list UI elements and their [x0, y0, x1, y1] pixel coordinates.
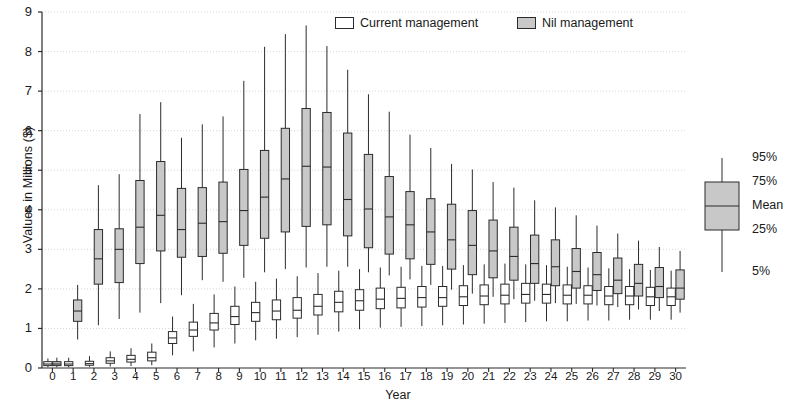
box-current-management	[625, 269, 633, 320]
box-current-management	[148, 343, 156, 365]
box-nil-management	[115, 174, 123, 319]
y-axis-tick-label: 0	[6, 360, 32, 375]
box-current-management	[501, 264, 509, 323]
y-axis-tick-label: 4	[6, 202, 32, 217]
plot-canvas	[0, 0, 796, 410]
box-current-management	[85, 356, 93, 367]
box-nil-management	[385, 112, 393, 276]
y-axis-tick-label: 6	[6, 123, 32, 138]
box-plot-key	[705, 158, 739, 272]
y-axis-tick-label: 3	[6, 241, 32, 256]
box-current-management	[168, 317, 176, 356]
box-nil-management	[157, 102, 165, 303]
box-nil-management	[94, 185, 102, 325]
box-current-management	[667, 271, 675, 320]
box-current-management	[231, 287, 239, 344]
box-current-management	[65, 358, 73, 367]
box-nil-management	[531, 200, 539, 300]
x-axis-tick-label: 30	[663, 370, 689, 382]
box-plot-figure: Values in Millions ($) Year Current mana…	[0, 0, 796, 410]
y-axis-tick-label: 5	[6, 162, 32, 177]
box-current-management	[376, 268, 384, 328]
box-current-management	[522, 264, 530, 322]
box-nil-management	[364, 94, 372, 272]
box-current-management	[542, 265, 550, 321]
box-current-management	[355, 269, 363, 329]
y-axis-tick-label: 2	[6, 281, 32, 296]
box-nil-management	[614, 234, 622, 308]
box-current-management	[44, 359, 52, 368]
box-current-management	[210, 294, 218, 347]
box-current-management	[335, 271, 343, 332]
box-nil-management	[655, 247, 663, 311]
box-nil-management	[136, 114, 144, 313]
box-nil-management	[219, 116, 227, 281]
y-axis-tick-label: 1	[6, 320, 32, 335]
y-axis-tick-label: 7	[6, 83, 32, 98]
box-current-management	[189, 304, 197, 351]
box-current-management	[563, 267, 571, 322]
box-current-management	[252, 282, 260, 341]
box-nil-management	[634, 241, 642, 310]
box-nil-management	[198, 124, 206, 280]
box-current-management	[438, 266, 446, 325]
box-current-management	[459, 265, 467, 324]
box-nil-management	[676, 251, 684, 313]
box-nil-management	[177, 138, 185, 295]
box-current-management	[106, 351, 114, 366]
box-current-management	[480, 264, 488, 323]
box-nil-management	[593, 226, 601, 306]
box-nil-management	[73, 285, 81, 340]
box-current-management	[272, 279, 280, 339]
box-nil-management	[468, 169, 476, 293]
box-current-management	[418, 266, 426, 326]
box-current-management	[293, 276, 301, 337]
box-nil-management	[447, 164, 455, 290]
box-nil-management	[53, 358, 61, 367]
box-current-management	[314, 273, 322, 335]
box-nil-management	[510, 188, 518, 300]
box-current-management	[605, 268, 613, 320]
box-current-management	[646, 270, 654, 320]
box-nil-management	[489, 182, 497, 297]
box-nil-management	[260, 47, 268, 272]
box-nil-management	[344, 70, 352, 267]
box-nil-management	[427, 148, 435, 285]
y-axis-tick-label: 9	[6, 4, 32, 19]
box-nil-management	[302, 25, 310, 267]
box-current-management	[397, 267, 405, 327]
box-nil-management	[323, 46, 331, 267]
box-nil-management	[406, 135, 414, 280]
box-current-management	[584, 268, 592, 321]
y-axis-tick-label: 8	[6, 44, 32, 59]
box-nil-management	[240, 81, 248, 278]
box-nil-management	[281, 34, 289, 269]
box-current-management	[127, 348, 135, 366]
box-nil-management	[572, 215, 580, 304]
